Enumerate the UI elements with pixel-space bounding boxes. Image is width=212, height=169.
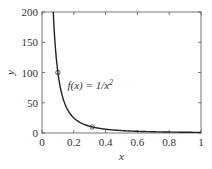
y-tick-label: 50 — [27, 97, 39, 109]
function-annotation: f(x) = 1/x2 — [67, 78, 113, 92]
y-tick-label: 100 — [22, 67, 39, 79]
x-tick-label: 0 — [39, 136, 45, 148]
x-tick-label: 0.2 — [67, 136, 81, 148]
y-axis-label: y — [4, 70, 16, 76]
chart: 00.20.40.60.81050100150200 x y f(x) = 1/… — [0, 0, 212, 169]
x-tick-label: 0.4 — [99, 136, 113, 148]
plot-frame — [42, 12, 201, 133]
x-tick-label: 0.6 — [131, 136, 145, 148]
x-tick-label: 0.8 — [162, 136, 176, 148]
curve-f-x — [53, 12, 201, 132]
axis-ticks — [42, 12, 201, 133]
y-tick-label: 0 — [33, 127, 39, 139]
x-axis-label: x — [118, 150, 124, 162]
x-tick-label: 1 — [198, 136, 204, 148]
y-tick-label: 150 — [22, 36, 39, 48]
y-tick-label: 200 — [22, 6, 39, 18]
